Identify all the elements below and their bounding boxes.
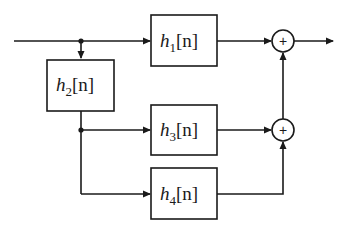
- block-diagram: + + h1[n] h2[n] h3[n] h4[n]: [0, 0, 349, 234]
- summer-bottom-symbol: +: [279, 122, 287, 138]
- junction-dot-2: [78, 127, 83, 132]
- wire-h4-to-sum: [217, 142, 283, 194]
- summer-top-symbol: +: [279, 33, 287, 49]
- junction-dot-1: [78, 38, 83, 43]
